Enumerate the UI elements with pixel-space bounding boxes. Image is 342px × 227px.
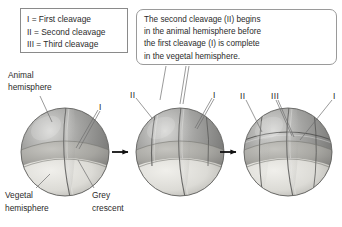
cleavage-legend: I = First cleavage II = Second cleavage …: [20, 8, 128, 53]
vegetal-hemisphere-label-line1: Vegetal: [5, 190, 33, 200]
embryo1-furrow-label-I: I: [99, 103, 102, 112]
vegetal-hemisphere-label-line2: hemisphere: [5, 203, 49, 213]
grey-crescent-label-line1: Grey: [92, 190, 110, 200]
legend-row-first-cleavage: I = First cleavage: [27, 13, 127, 26]
embryo3-furrow-label-I: I: [333, 92, 336, 101]
callout-line-3: the first cleavage (I) is complete: [144, 38, 330, 50]
animal-hemisphere-label-line1: Animal: [8, 70, 34, 80]
embryo2-furrow-label-I: I: [213, 91, 216, 100]
embryo3-furrow-label-III: III: [271, 92, 279, 101]
diagram-canvas: I = First cleavage II = Second cleavage …: [0, 0, 342, 227]
embryo2-furrow-label-II: II: [130, 91, 135, 100]
animal-hemisphere-label-line2: hemisphere: [8, 82, 52, 92]
embryo3-furrow-label-II: II: [240, 92, 245, 101]
callout-line-1: The second cleavage (II) begins: [144, 14, 330, 26]
legend-row-third-cleavage: III = Third cleavage: [27, 38, 127, 51]
callout-line-4: in the vegetal hemisphere.: [144, 51, 330, 63]
grey-crescent-label-line2: crescent: [92, 203, 124, 213]
callout-line-2: in the animal hemisphere before: [144, 26, 330, 38]
legend-row-second-cleavage: II = Second cleavage: [27, 26, 127, 39]
second-cleavage-callout: The second cleavage (II) begins in the a…: [136, 9, 337, 65]
